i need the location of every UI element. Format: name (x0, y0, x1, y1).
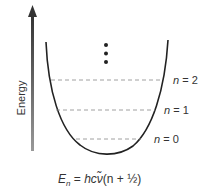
level-value: = 1 (173, 104, 189, 116)
level-label-n1: n = 1 (164, 104, 189, 116)
formula-tail: (n + ½) (103, 172, 141, 186)
level-var: n (154, 133, 160, 145)
energy-axis-label: Energy (15, 73, 27, 123)
level-var: n (164, 104, 170, 116)
harmonic-oscillator-diagram: Energy n = 2 n = 1 n = 0 En = hcν̃(n + ½… (0, 0, 210, 194)
energy-axis-arrow (28, 5, 37, 151)
formula-equals: = (70, 172, 84, 186)
level-label-n2: n = 2 (173, 74, 198, 86)
level-var: n (173, 74, 179, 86)
formula-energy-var: E (58, 172, 66, 186)
formula-hc: hc (84, 172, 97, 186)
energy-formula: En = hcν̃(n + ½) (58, 172, 141, 188)
diagram-canvas (0, 0, 210, 194)
vertical-ellipsis-icon (104, 43, 108, 64)
level-value: = 0 (163, 133, 179, 145)
potential-well-curve (46, 40, 168, 154)
level-label-n0: n = 0 (154, 133, 179, 145)
level-value: = 2 (182, 74, 198, 86)
